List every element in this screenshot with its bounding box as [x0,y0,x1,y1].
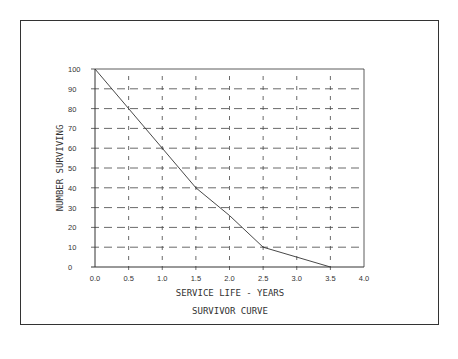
y-tick-label: 40 [68,184,76,193]
x-tick-label: 2.0 [224,274,234,283]
y-axis-label: NUMBER SURVIVING [55,125,65,212]
x-tick-label: 4.0 [359,274,369,283]
x-tick-label: 2.5 [258,274,268,283]
x-tick-label: 3.5 [325,274,335,283]
y-tick-label: 70 [68,124,76,133]
x-tick-label: 3.0 [292,274,302,283]
y-tick-label: 60 [68,144,76,153]
x-tick-label: 0.0 [90,274,100,283]
x-tick-label: 1.5 [191,274,201,283]
chart-title: SURVIVOR CURVE [192,306,268,316]
y-tick-label: 30 [68,204,76,213]
y-tick-label: 80 [68,105,76,114]
x-axis-label: SERVICE LIFE - YEARS [176,288,284,298]
y-tick-label: 0 [68,263,72,272]
survivor-curve-chart: 0.00.51.01.52.02.53.03.54.00102030405060… [0,0,458,359]
y-tick-label: 10 [68,243,76,252]
grid-lines [91,76,360,270]
y-tick-label: 90 [68,85,76,94]
y-tick-label: 50 [68,164,76,173]
y-tick-label: 20 [68,223,76,232]
tick-labels: 0.00.51.01.52.02.53.03.54.00102030405060… [68,65,369,283]
y-tick-label: 100 [68,65,81,74]
x-tick-label: 1.0 [157,274,167,283]
x-tick-label: 0.5 [123,274,133,283]
